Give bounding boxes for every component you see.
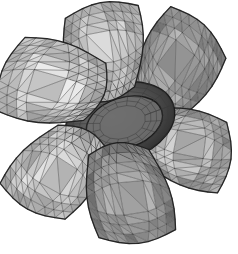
figure-root: Triangulated minimal surface patch assem… (0, 0, 238, 254)
minimal-surface-rendering (0, 0, 238, 254)
